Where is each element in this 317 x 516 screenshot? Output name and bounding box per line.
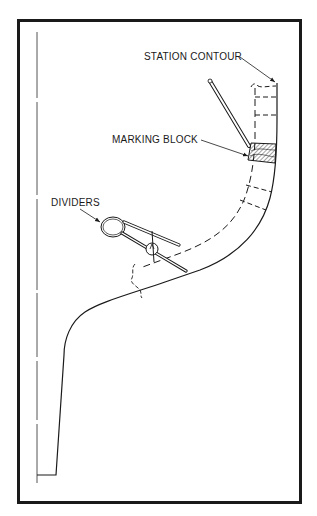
diagram-svg [0, 0, 317, 516]
diagram-canvas: STATION CONTOUR MARKING BLOCK DIVIDERS [0, 0, 317, 516]
dividers-leader [80, 209, 100, 222]
top-break-mark [251, 84, 276, 87]
frame-border [19, 21, 301, 503]
station-contour-label: STATION CONTOUR [144, 52, 242, 62]
dividers-label: DIVIDERS [51, 198, 100, 208]
pencil-icon [208, 79, 249, 146]
marking-block-leader [201, 140, 248, 156]
marking-block-label: MARKING BLOCK [112, 135, 198, 145]
offset-dashed-line [140, 88, 255, 268]
station-contour-leader [240, 57, 275, 82]
dividers-icon [101, 217, 186, 271]
marking-block [248, 143, 276, 163]
